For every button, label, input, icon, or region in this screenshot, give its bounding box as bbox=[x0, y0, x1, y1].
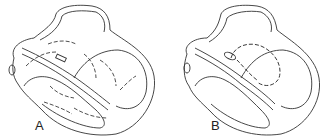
panel-b bbox=[165, 0, 329, 139]
heart-diagram-a bbox=[0, 0, 165, 139]
panel-a bbox=[0, 0, 165, 139]
panel-label-a: A bbox=[35, 118, 44, 133]
panel-label-b: B bbox=[211, 118, 220, 133]
heart-diagram-b bbox=[165, 0, 329, 139]
